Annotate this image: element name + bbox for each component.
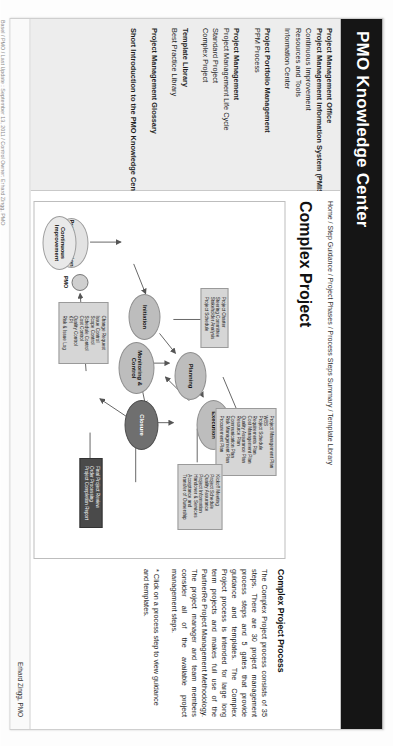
sidebar-item-project-portfolio-management[interactable]: Project Portfolio Management <box>261 28 271 182</box>
node-label: Initiation <box>141 305 147 329</box>
pmo-label: PMO <box>62 276 68 288</box>
sidebar-item-project-management[interactable]: Project Management <box>230 28 240 182</box>
content-columns: Project Selection Initiation Planning <box>33 201 285 720</box>
sidebar-group-intro: Short Introduction to the PMO Knowledge … <box>127 28 137 182</box>
sidebar-item-best-practice-library[interactable]: Best Practice Library <box>168 28 178 182</box>
page-footer: Erhard Zingg, PMO <box>10 19 30 729</box>
document-paper: PMO Knowledge Center Project Management … <box>9 18 383 730</box>
sidebar-group-project-management: Project Management Project Management Li… <box>199 28 241 182</box>
doc-execution: Kickoff Meeting Project Schedule Quality… <box>178 464 223 530</box>
node-label: Planning <box>187 364 193 388</box>
node-monitoring-control[interactable]: Monitoring & Control <box>118 342 154 394</box>
node-continuous-improvement[interactable]: Continuous Improvement <box>42 216 76 270</box>
sidebar: Project Management Office Project Manage… <box>30 19 340 191</box>
diagram-column: Project Selection Initiation Planning <box>33 201 285 559</box>
node-planning[interactable]: Planning <box>174 352 206 400</box>
node-label: Monitoring & Control <box>130 343 143 393</box>
breadcrumb[interactable]: Home / Step Guidance / Project Phases / … <box>326 201 333 720</box>
description-panel: Complex Project Process The Complex Proj… <box>33 569 285 717</box>
sidebar-item-information-center[interactable]: Information Center <box>281 28 291 182</box>
rotated-page: PMO Knowledge Center Project Management … <box>0 0 393 746</box>
node-closure[interactable]: Closure <box>124 400 158 450</box>
panel-paragraph: The Complex Project process consists of … <box>168 569 268 717</box>
sidebar-group-templates: Template Library Best Practice Library <box>168 28 189 182</box>
node-label: Continuous Improvement <box>53 217 66 269</box>
screenshot-frame: PMO Knowledge Center Project Management … <box>0 0 393 746</box>
sidebar-item-project-management-office[interactable]: Project Management Office <box>323 28 333 182</box>
panel-note: * Click on a process step to view guidan… <box>140 569 160 717</box>
process-diagram-card: Project Selection Initiation Planning <box>33 201 285 559</box>
doc-monitoring: Change Request Issue Control Scope Contr… <box>58 302 108 364</box>
sidebar-item-continuous-improvement[interactable]: Continuous Improvement <box>302 28 312 182</box>
sidebar-item-short-introduction[interactable]: Short Introduction to the PMO Knowledge … <box>127 28 137 182</box>
doc-planning: Project Management Plan WBS Project Sche… <box>215 408 276 476</box>
sidebar-item-pmis[interactable]: Project Management Information System (P… <box>312 28 322 182</box>
content-title: Complex Project <box>295 201 313 720</box>
main-content: Home / Step Guidance / Project Phases / … <box>30 191 340 729</box>
sidebar-group-pmo: Project Management Office Project Manage… <box>281 28 333 182</box>
node-label: Closure <box>138 414 144 436</box>
footer-credit: Erhard Zingg, PMO <box>16 662 23 717</box>
sidebar-item-resources-and-tools[interactable]: Resources and Tools <box>291 28 301 182</box>
node-initiation[interactable]: Initiation <box>128 294 160 340</box>
sidebar-item-project-management-glossary[interactable]: Project Management Glossary <box>147 28 157 182</box>
watermark-text: Basel / PMO / Last Update : September 13… <box>0 20 5 350</box>
sidebar-item-ppm-process[interactable]: PPM Process <box>250 28 260 182</box>
sidebar-item-project-management-life-cycle[interactable]: Project Management Life Cycle <box>219 28 229 182</box>
doc-closure: Final Project Review Order Processing Pr… <box>80 458 103 528</box>
app-header: PMO Knowledge Center <box>340 19 382 729</box>
page-title: PMO Knowledge Center <box>351 19 371 228</box>
page: PMO Knowledge Center Project Management … <box>0 0 393 746</box>
sidebar-group-portfolio: Project Portfolio Management PPM Process <box>250 28 271 182</box>
sidebar-item-template-library[interactable]: Template Library <box>178 28 188 182</box>
sidebar-item-complex-project[interactable]: Complex Project <box>199 28 209 182</box>
doc-initiation: Project Charter Steering Committee Stake… <box>200 288 228 348</box>
sidebar-item-standard-project[interactable]: Standard Project <box>209 28 219 182</box>
sidebar-group-glossary: Project Management Glossary <box>147 28 157 182</box>
page-body: Project Management Office Project Manage… <box>30 19 340 729</box>
pmo-icon <box>71 274 88 291</box>
panel-heading: Complex Project Process <box>275 569 285 717</box>
